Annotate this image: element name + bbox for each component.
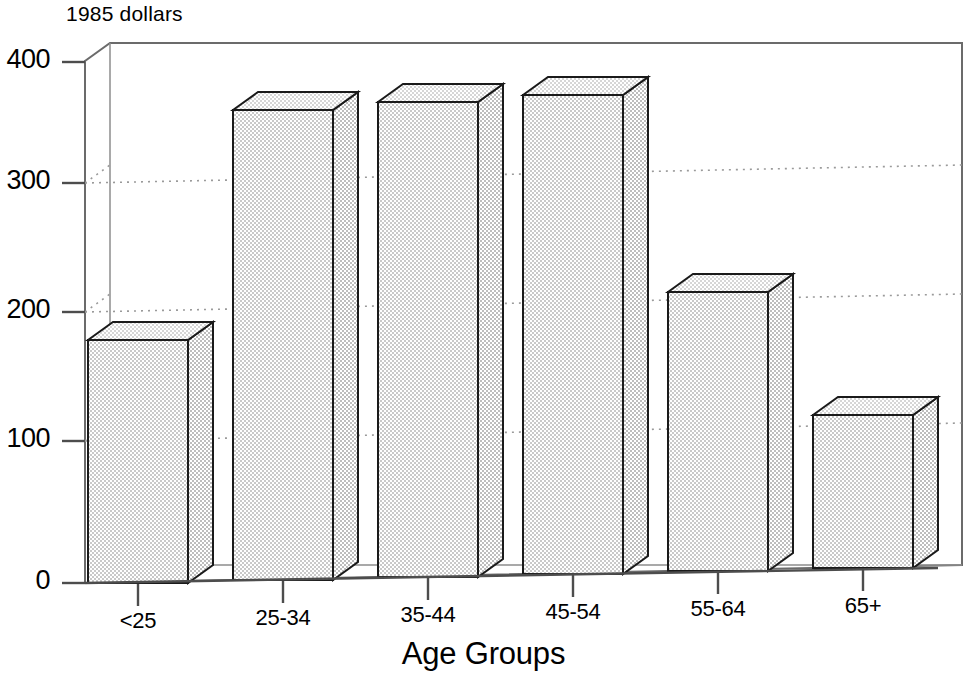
y-tick-label-100: 100: [0, 423, 50, 454]
y-tick-label-400: 400: [0, 44, 50, 75]
x-axis-title: Age Groups: [0, 636, 967, 672]
chart-unit-label: 1985 dollars: [66, 2, 183, 26]
bar-chart-figure: 1985 dollars 400 300 200 100 0 <25 25-34…: [0, 0, 967, 678]
x-tick-label-45-54: 45-54: [513, 599, 633, 625]
bar-lt25: [88, 322, 213, 583]
y-tick-label-300: 300: [0, 165, 50, 196]
x-tick-label-25-34: 25-34: [223, 605, 343, 631]
bar-65plus: [813, 397, 938, 568]
floor-edge: [85, 568, 938, 583]
x-tick-label-55-64: 55-64: [658, 596, 778, 622]
bar-45-54: [523, 77, 648, 574]
x-tick-label-65plus: 65+: [803, 593, 923, 619]
y-axis-ticks: [62, 62, 85, 583]
bar-55-64: [668, 274, 793, 571]
y-tick-label-0: 0: [0, 565, 50, 596]
y-tick-label-200: 200: [0, 294, 50, 325]
chart-canvas: [0, 0, 967, 678]
bar-35-44: [378, 84, 503, 577]
x-tick-label-lt25: <25: [78, 608, 198, 634]
bar-25-34: [233, 92, 358, 580]
x-tick-label-35-44: 35-44: [368, 602, 488, 628]
bar-series: [88, 77, 938, 583]
